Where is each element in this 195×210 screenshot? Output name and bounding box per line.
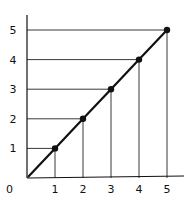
y-tick-label: 5 — [10, 24, 17, 37]
y-tick-labels: 12345 — [10, 24, 17, 155]
x-tick-label: 2 — [80, 183, 87, 196]
data-point — [164, 27, 170, 33]
x-tick-label: 1 — [52, 183, 59, 196]
y-tick-label: 2 — [10, 113, 17, 126]
x-tick-label: 4 — [136, 183, 143, 196]
origin-label: 0 — [6, 183, 13, 196]
x-tick-label: 5 — [164, 183, 171, 196]
y-tick-label: 1 — [10, 142, 17, 155]
x-tick-labels: 12345 — [52, 183, 171, 196]
data-point — [52, 145, 58, 151]
line-chart: 12345 12345 0 — [0, 0, 195, 210]
series-line — [28, 30, 167, 177]
y-tick-label: 3 — [10, 83, 17, 96]
data-point — [108, 86, 114, 92]
x-tick-label: 3 — [108, 183, 115, 196]
y-tick-label: 4 — [10, 54, 17, 67]
x-axis — [27, 176, 184, 178]
data-point — [80, 116, 86, 122]
data-point — [136, 56, 142, 62]
